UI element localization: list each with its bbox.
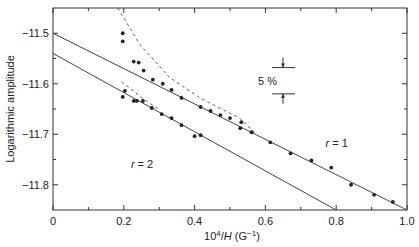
axis-ticks: 00.20.40.60.81.0−11.5−11.6−11.7−11.8	[22, 8, 415, 227]
x-axis-title: 104/H (G−1)	[204, 229, 260, 243]
data-point	[161, 82, 165, 86]
plot-border	[53, 8, 407, 210]
data-point	[329, 166, 333, 170]
data-point	[239, 120, 243, 124]
fit-line	[53, 33, 407, 210]
data-point	[180, 96, 184, 100]
y-tick-label: −11.6	[22, 78, 49, 90]
data-point	[268, 140, 272, 144]
data-point	[121, 31, 125, 35]
data-point	[372, 193, 376, 197]
data-point	[150, 106, 154, 110]
series-label: r = 2	[131, 158, 153, 170]
x-tick-label: 0	[50, 215, 56, 227]
y-tick-label: −11.8	[22, 179, 49, 191]
chart: 00.20.40.60.81.0−11.5−11.6−11.7−11.8 r =…	[0, 0, 419, 247]
y-tick-label: −11.7	[22, 128, 49, 140]
data-point	[349, 183, 353, 187]
data-point	[141, 99, 145, 103]
arrow-up-icon	[281, 94, 285, 98]
x-tick-label: 0.8	[329, 215, 344, 227]
dashed-curve	[118, 8, 255, 132]
data-point	[170, 88, 174, 92]
data-point	[137, 61, 141, 65]
series-label: r = 1	[326, 137, 348, 149]
data-point	[142, 69, 146, 73]
fit-line	[53, 53, 336, 210]
data-point	[391, 200, 395, 204]
data-point	[209, 109, 213, 113]
data-point	[135, 99, 139, 103]
x-tick-label: 0.6	[258, 215, 273, 227]
data-point	[228, 116, 232, 120]
data-point	[250, 130, 254, 134]
data-point	[160, 112, 164, 116]
fit-lines	[53, 33, 407, 210]
plot-frame	[53, 8, 407, 210]
data-point	[310, 159, 314, 163]
data-point	[170, 116, 174, 120]
data-point	[121, 39, 125, 43]
x-tick-label: 1.0	[399, 215, 414, 227]
data-point	[123, 89, 127, 93]
data-point	[121, 95, 125, 99]
data-point	[180, 123, 184, 127]
dashed-curves	[118, 8, 255, 132]
x-tick-label: 0.2	[116, 215, 131, 227]
y-tick-label: −11.5	[22, 27, 49, 39]
data-point	[193, 134, 197, 138]
x-tick-label: 0.4	[187, 215, 202, 227]
data-point	[132, 60, 136, 64]
dashed-curve	[122, 82, 160, 110]
data-point	[199, 105, 203, 109]
data-point	[199, 133, 203, 137]
data-points	[121, 31, 395, 203]
data-point	[289, 152, 293, 156]
y-axis-title: Logarithmic amplitude	[4, 55, 16, 163]
scale-label: 5 %	[258, 75, 277, 87]
data-point	[151, 78, 155, 82]
data-point	[219, 113, 223, 117]
data-point	[238, 126, 242, 130]
arrow-down-icon	[281, 64, 285, 68]
